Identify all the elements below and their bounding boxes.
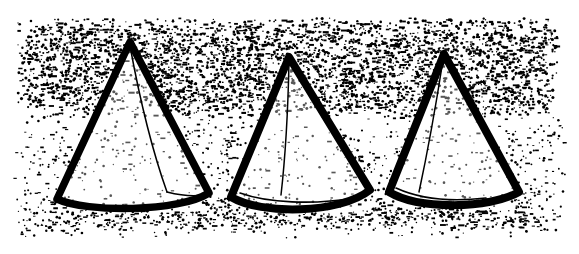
cone-group bbox=[57, 42, 519, 209]
cones-illustration-svg bbox=[0, 0, 579, 254]
figure-canvas: Three conical forms on stippled ground p… bbox=[0, 0, 579, 254]
